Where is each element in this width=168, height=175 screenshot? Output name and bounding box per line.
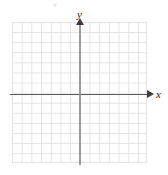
y-axis-label: y [77,9,82,20]
coordinate-plane-figure: x x y [0,0,168,175]
y-axis-line [79,24,81,165]
x-axis-arrowhead-icon [147,90,154,98]
x-axis-label: x [156,89,161,100]
top-faint-artifact-mark: x [53,0,57,9]
